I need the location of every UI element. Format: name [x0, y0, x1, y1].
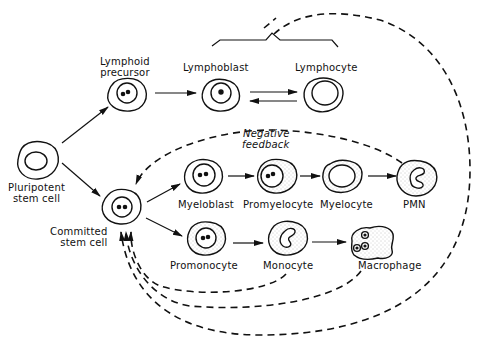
lymphoid-precursor-cell-icon — [108, 78, 147, 111]
lymphoblast-label: Lymphoblast — [183, 62, 249, 73]
promyelocyte-cell-icon — [258, 159, 297, 193]
pluripotent-label-line1: Pluripotent — [8, 182, 65, 193]
feedback-lymphoid-start — [264, 18, 276, 28]
annotation-line2: feedback — [228, 139, 290, 150]
lymphoid-precursor-label: Lymphoid precursor — [100, 56, 150, 78]
macrophage-label: Macrophage — [358, 260, 422, 271]
arrow-committed-to-myeloblast — [147, 184, 180, 202]
myeloblast-cell-icon — [185, 160, 223, 194]
arrow-committed-to-promonocyte — [146, 218, 182, 236]
lymphoblast-cell-icon — [202, 79, 239, 111]
pluripotent-stem-cell-label: Pluripotent stem cell — [8, 182, 65, 204]
committed-stem-cell-label: Committed stem cell — [50, 226, 108, 248]
lymphocyte-cell-icon — [304, 78, 343, 112]
lymphoid-group-bracket — [212, 33, 338, 47]
myelocyte-label: Myelocyte — [320, 199, 373, 210]
pluripotent-label-line2: stem cell — [8, 193, 65, 204]
committed-label-line2: stem cell — [50, 237, 108, 248]
annotation-line1: Negative — [228, 128, 290, 139]
committed-label-line1: Committed — [50, 226, 108, 237]
diagram-canvas — [0, 0, 487, 349]
promyelocyte-label: Promyelocyte — [243, 199, 313, 210]
arrow-pluripotent-to-committed — [62, 163, 100, 196]
promonocyte-cell-icon — [188, 222, 226, 255]
arrow-pluripotent-to-lymphoid — [62, 107, 108, 143]
myeloblast-label: Myeloblast — [178, 199, 234, 210]
monocyte-label: Monocyte — [263, 260, 313, 271]
myelocyte-cell-icon — [323, 160, 362, 192]
macrophage-cell-icon — [352, 226, 394, 259]
monocyte-cell-icon — [269, 221, 308, 255]
pmn-cell-icon — [397, 161, 437, 196]
lymphocyte-label: Lymphocyte — [295, 62, 358, 73]
pmn-label: PMN — [403, 199, 426, 210]
lymphoid-label-line1: Lymphoid — [100, 56, 150, 67]
promonocyte-label: Promonocyte — [170, 260, 238, 271]
lymphoid-label-line2: precursor — [100, 67, 150, 78]
pluripotent-stem-cell-icon — [18, 142, 59, 179]
committed-stem-cell-icon — [102, 189, 141, 224]
negative-feedback-annotation: Negative feedback — [228, 128, 290, 150]
